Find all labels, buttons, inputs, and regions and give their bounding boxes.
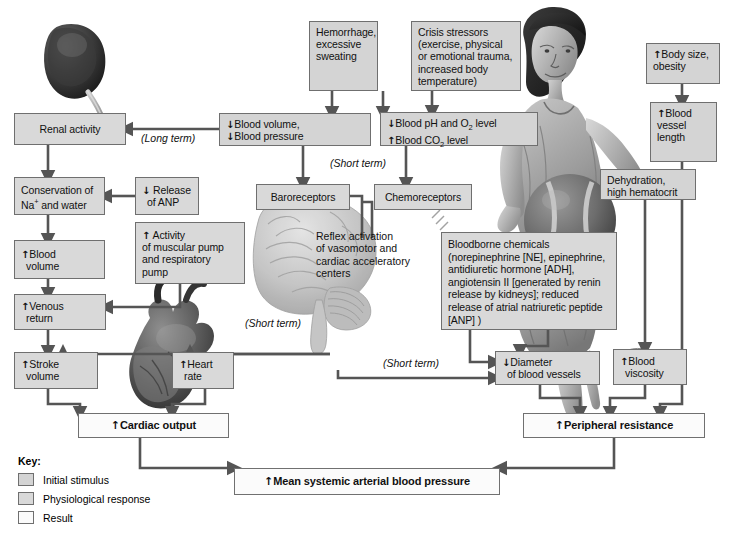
blood-ph-level-text: level [473,117,497,129]
box-activity-muscular-respiratory-pump[interactable]: ↑ Activity of muscular pump and respirat… [135,222,245,284]
box-bloodborne-chemicals[interactable]: Bloodborne chemicals (norepinephrine [NE… [441,232,617,330]
legend: Key: Initial stimulus Physiological resp… [18,455,150,530]
label-long-term: (Long term) [141,132,195,144]
box-release-of-anp[interactable]: ↓ Release of ANP [135,177,199,215]
label-short-term-mid: (Short term) [245,317,301,329]
legend-item-initial-stimulus: Initial stimulus [18,473,150,486]
peripheral-resistance-text: Peripheral resistance [564,419,673,431]
legend-label-physiological-response: Physiological response [43,493,150,505]
box-renal-activity[interactable]: Renal activity [14,113,126,145]
box-conservation-na-water[interactable]: Conservation of Na+ and water [14,177,105,215]
blood-co2-level-text: level [444,134,468,146]
box-blood-volume[interactable]: ↑Blood volume [14,240,105,279]
reflex-line1: Reflex activation [316,230,446,242]
kidney-illustration [44,24,105,120]
box-peripheral-resistance[interactable]: ↑Peripheral resistance [523,413,705,438]
legend-swatch-initial-stimulus [18,473,34,486]
hemorrhage-text: Hemorrhage, excessive sweating [316,26,376,62]
legend-swatch-physiological-response [18,492,34,505]
crisis-stressors-text: Crisis stressors (exercise, physical or … [418,26,512,87]
heart-rate-line2: rate [179,370,227,382]
cardiac-output-text: Cardiac output [120,419,196,431]
chemoreceptors-text: Chemoreceptors [385,191,461,203]
diagram-canvas: Hemorrhage, excessive sweating Crisis st… [0,0,736,558]
box-crisis-stressors[interactable]: Crisis stressors (exercise, physical or … [411,21,521,91]
blood-volume-text: Blood volume, [234,118,299,130]
conservation-water: and water [39,199,87,211]
box-dehydration-hematocrit[interactable]: Dehydration, high hematocrit [600,169,696,200]
legend-item-result: Result [18,511,150,524]
legend-swatch-result [18,511,34,524]
heart-rate-line1: Heart [187,358,212,370]
box-hemorrhage[interactable]: Hemorrhage, excessive sweating [309,21,378,91]
box-diameter-blood-vessels[interactable]: ↓Diameter of blood vessels [495,351,600,385]
box-blood-ph-co2[interactable]: ↓Blood pH and O2 level ↑Blood CO2 level [380,112,538,146]
box-heart-rate[interactable]: ↑Heart rate [172,352,234,389]
diameter-line1: Diameter [510,356,552,368]
legend-title: Key: [18,455,150,467]
label-reflex-activation: Reflex activation of vasomotor and cardi… [316,230,446,280]
reflex-line4: centers [316,267,446,279]
box-body-size-obesity[interactable]: ↑Body size, obesity [646,43,720,84]
reflex-line2: of vasomotor and [316,242,446,254]
box-chemoreceptors[interactable]: Chemoreceptors [374,184,472,210]
blood-co2-text: Blood CO [395,134,440,146]
reflex-line3: cardiac acceleratory [316,255,446,267]
blood-volume-line2: volume [21,260,98,272]
legend-label-initial-stimulus: Initial stimulus [43,474,109,486]
conservation-na: Na [21,199,34,211]
box-baroreceptors[interactable]: Baroreceptors [256,184,350,210]
diameter-line2: of blood vessels [502,368,593,380]
release-anp-line1: Release [153,184,191,196]
stroke-volume-line1: Stroke [29,358,59,370]
down-arrow-icon: ↓ [142,185,150,196]
activity-pump-line4: pump [142,266,238,278]
bloodborne-chemicals-text: Bloodborne chemicals (norepinephrine [NE… [448,238,605,326]
body-size-text: Body size, obesity [653,48,709,72]
blood-ph-text: Blood pH and O [395,117,468,129]
up-arrow-icon: ↑ [555,420,564,431]
up-arrow-icon: ↑ [111,420,120,431]
renal-activity-text: Renal activity [39,123,100,135]
viscosity-line1: Blood [628,355,654,367]
up-arrow-icon: ↑ [264,476,273,487]
activity-pump-line3: and respiratory [142,253,238,265]
legend-label-result: Result [43,512,73,524]
box-cardiac-output[interactable]: ↑Cardiac output [78,413,229,438]
blood-pressure-text: Blood pressure [234,130,303,142]
box-blood-volume-pressure[interactable]: ↓Blood volume, ↓Blood pressure [219,113,371,146]
box-blood-viscosity[interactable]: ↑Blood viscosity [613,349,687,385]
up-arrow-icon: ↑ [142,230,150,241]
box-mean-arterial-blood-pressure[interactable]: ↑Mean systemic arterial blood pressure [234,468,500,495]
dehydration-line1: Dehydration, [607,174,689,186]
conservation-line1: Conservation of [21,184,98,196]
legend-item-physiological-response: Physiological response [18,492,150,505]
map-text: Mean systemic arterial blood pressure [273,475,470,487]
box-stroke-volume[interactable]: ↑Stroke volume [14,352,98,389]
label-short-term-top: (Short term) [330,157,386,169]
activity-pump-line1: Activity [153,229,185,241]
baroreceptors-text: Baroreceptors [271,191,336,203]
venous-return-line1: Venous [29,300,63,312]
stroke-volume-line2: volume [21,370,91,382]
box-venous-return[interactable]: ↑Venous return [14,294,106,330]
label-short-term-low: (Short term) [383,357,439,369]
blood-volume-line1: Blood [29,248,55,260]
box-blood-vessel-length[interactable]: ↑Blood vessel length [650,102,717,162]
activity-pump-line2: of muscular pump [142,241,238,253]
dehydration-line2: high hematocrit [607,186,689,198]
release-anp-line2: of ANP [142,196,192,208]
viscosity-line2: viscosity [620,367,680,379]
venous-return-line2: return [21,312,99,324]
